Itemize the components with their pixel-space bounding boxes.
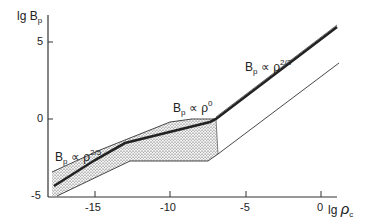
y-tick-label: -5 xyxy=(31,189,41,201)
x-axis-label: lg ρc xyxy=(328,200,353,219)
y-tick-label: 0 xyxy=(37,112,43,124)
y-axis-label: lg Bp xyxy=(17,9,42,25)
x-tick-label: -15 xyxy=(85,201,101,213)
y-tick-label: 5 xyxy=(37,35,43,47)
annotation-power-2-3: Bp ∝ ρ2/3 xyxy=(245,58,291,76)
x-tick-label: -10 xyxy=(160,201,176,213)
annotation-power-2-5: Bp ∝ ρ2/5 xyxy=(55,148,101,166)
x-tick-label: -5 xyxy=(240,201,250,213)
annotation-power-0: Bp ∝ ρ0 xyxy=(173,99,212,117)
x-tick-label: 0 xyxy=(317,201,323,213)
